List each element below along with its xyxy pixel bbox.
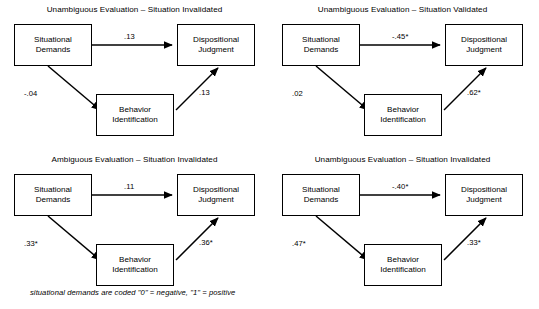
node-line-2: Judgment — [461, 45, 507, 55]
node-line-2: Demands — [34, 195, 72, 205]
node-dispositional-judgment: Dispositional Judgment — [445, 174, 523, 216]
path-model-figure: Unambiguous Evaluation – Situation Inval… — [0, 0, 539, 309]
path-coefficient-direct: .13 — [124, 32, 135, 41]
path-coefficient-a: .47* — [292, 239, 306, 248]
node-line-2: Judgment — [193, 45, 239, 55]
path-coefficient-a: .33* — [24, 239, 38, 248]
node-dispositional-judgment: Dispositional Judgment — [445, 24, 523, 66]
path-coefficient-b: .13 — [199, 88, 210, 97]
path-coefficient-a: -.04 — [24, 89, 37, 98]
node-line-1: Dispositional — [193, 185, 239, 195]
node-line-1: Situational — [302, 35, 340, 45]
path-coefficient-b: .33* — [467, 238, 481, 247]
node-line-1: Dispositional — [461, 35, 507, 45]
node-line-1: Dispositional — [461, 185, 507, 195]
node-line-2: Demands — [302, 45, 340, 55]
node-situational-demands: Situational Demands — [14, 24, 92, 66]
node-situational-demands: Situational Demands — [14, 174, 92, 216]
node-dispositional-judgment: Dispositional Judgment — [177, 24, 255, 66]
panel-bottom-left: Ambiguous Evaluation – Situation Invalid… — [0, 152, 269, 302]
node-line-1: Behavior — [380, 255, 425, 265]
node-line-1: Behavior — [112, 105, 157, 115]
node-behavior-identification: Behavior Identification — [364, 94, 442, 136]
node-line-1: Situational — [34, 35, 72, 45]
node-line-1: Situational — [34, 185, 72, 195]
path-coefficient-b: .62* — [467, 88, 481, 97]
node-line-2: Identification — [112, 115, 157, 125]
node-line-1: Dispositional — [193, 35, 239, 45]
node-line-1: Situational — [302, 185, 340, 195]
path-coefficient-direct: -.45* — [392, 32, 408, 41]
node-line-2: Identification — [112, 265, 157, 275]
node-situational-demands: Situational Demands — [282, 24, 360, 66]
path-coefficient-direct: -.40* — [392, 182, 408, 191]
node-line-1: Behavior — [380, 105, 425, 115]
node-line-2: Identification — [380, 265, 425, 275]
node-behavior-identification: Behavior Identification — [364, 244, 442, 286]
node-line-1: Behavior — [112, 255, 157, 265]
node-dispositional-judgment: Dispositional Judgment — [177, 174, 255, 216]
path-coefficient-a: .02 — [292, 89, 303, 98]
path-coefficient-direct: .11 — [124, 182, 134, 191]
path-coefficient-b: .36* — [199, 238, 213, 247]
node-behavior-identification: Behavior Identification — [96, 94, 174, 136]
node-line-2: Demands — [302, 195, 340, 205]
node-line-2: Demands — [34, 45, 72, 55]
node-line-2: Judgment — [193, 195, 239, 205]
node-line-2: Identification — [380, 115, 425, 125]
node-situational-demands: Situational Demands — [282, 174, 360, 216]
panel-bottom-right: Unambiguous Evaluation – Situation Inval… — [268, 152, 537, 302]
node-behavior-identification: Behavior Identification — [96, 244, 174, 286]
panel-top-right: Unambiguous Evaluation – Situation Valid… — [268, 2, 537, 152]
node-line-2: Judgment — [461, 195, 507, 205]
panel-top-left: Unambiguous Evaluation – Situation Inval… — [0, 2, 269, 152]
